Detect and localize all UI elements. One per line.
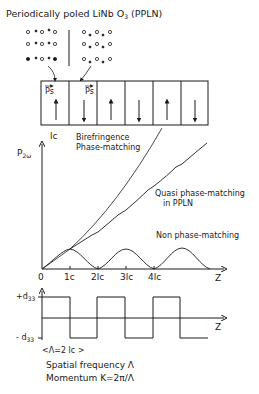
pointer-arrow-left-icon — [48, 66, 55, 80]
x-tick-1: 1c — [64, 272, 75, 282]
ps-label-right: Ps — [85, 87, 94, 97]
y-axis-label: P2ω — [17, 148, 31, 161]
x-tick-2: 2lc — [91, 272, 104, 282]
lattice-right-icon — [82, 30, 111, 63]
quasi-label-1: Quasi phase-matching — [155, 189, 245, 199]
spatial-frequency-text: Spatial frequency Λ — [46, 360, 134, 370]
momentum-text: Momentum K=2π/Λ — [46, 373, 134, 383]
pointer-arrow-right-icon — [81, 66, 91, 80]
x-tick-3: 3lc — [120, 272, 133, 282]
plus-d33-label: +d33 — [16, 292, 35, 304]
quasi-label-2: in PPLN — [163, 199, 193, 209]
ps-label-left: Ps — [45, 87, 54, 97]
minus-d33-label: - d33 — [16, 333, 34, 345]
lattice-left-icon — [26, 29, 56, 61]
x-axis-label-z: Z — [215, 273, 221, 283]
birefringence-label-1: Birefringence — [76, 133, 130, 143]
ppln-domain-box — [41, 81, 208, 125]
x-tick-4: 4lc — [148, 272, 161, 282]
period-label: <Λ=2 lc > — [42, 346, 84, 356]
non-phase-matching-label: Non phase-matching — [156, 231, 239, 241]
lc-label: lc — [50, 131, 57, 141]
x-tick-0: 0 — [38, 272, 44, 282]
birefringence-label-2: Phase-matching — [76, 143, 140, 153]
d33-axis-label-z: Z — [215, 322, 221, 332]
